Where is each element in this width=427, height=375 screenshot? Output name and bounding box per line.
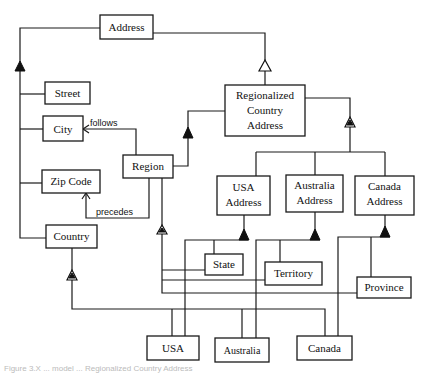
class-canada-address[interactable]: Canada Address (355, 176, 414, 215)
country-bus-line (72, 248, 325, 336)
class-regionalized-country-address[interactable]: Regionalized Country Address (225, 85, 305, 136)
svg-text:Address: Address (225, 196, 261, 208)
follows-label: follows (90, 118, 118, 128)
class-state[interactable]: State (205, 254, 243, 275)
class-city[interactable]: City (43, 116, 83, 141)
class-region[interactable]: Region (123, 155, 173, 178)
svg-text:Territory: Territory (274, 267, 313, 279)
usa-aggregation-triangle-icon (239, 229, 249, 240)
address-generalization-line (153, 33, 265, 85)
svg-text:City: City (54, 123, 73, 135)
class-canada[interactable]: Canada (297, 336, 352, 360)
svg-text:Address: Address (296, 194, 332, 206)
svg-text:USA: USA (162, 342, 184, 354)
svg-text:Address: Address (247, 119, 283, 131)
class-territory[interactable]: Territory (265, 262, 322, 285)
precedes-label: precedes (96, 207, 134, 217)
class-usa-address[interactable]: USA Address (217, 176, 270, 215)
svg-text:Zip Code: Zip Code (50, 175, 91, 187)
figure-caption: Figure 3.X ... model ... Regionalized Co… (4, 364, 193, 373)
svg-text:USA: USA (232, 181, 254, 193)
region-aggregation-triangle-icon (183, 127, 193, 138)
svg-text:Canada: Canada (368, 180, 401, 192)
svg-text:Country: Country (247, 104, 284, 116)
canada-aggregation-triangle-icon (380, 226, 390, 237)
svg-text:Province: Province (364, 281, 403, 293)
generalization-triangle-icon (259, 60, 271, 71)
class-country[interactable]: Country (46, 225, 97, 248)
rca-subclass-line (305, 98, 350, 152)
svg-text:Canada: Canada (308, 342, 341, 354)
class-australia[interactable]: Australia (215, 338, 269, 362)
svg-text:Australia: Australia (224, 345, 261, 356)
svg-text:State: State (213, 258, 235, 270)
svg-text:Address: Address (108, 21, 144, 33)
australia-aggregation-triangle-icon (310, 229, 320, 240)
class-province[interactable]: Province (357, 277, 411, 298)
svg-text:Street: Street (55, 87, 81, 99)
svg-text:Australia: Australia (294, 179, 334, 191)
region-rca-line (173, 111, 225, 166)
class-zip-code[interactable]: Zip Code (42, 170, 100, 193)
class-address[interactable]: Address (100, 15, 153, 39)
follows-line (83, 129, 136, 155)
svg-text:Address: Address (366, 195, 402, 207)
class-street[interactable]: Street (45, 82, 90, 104)
svg-text:Country: Country (53, 230, 90, 242)
class-usa[interactable]: USA (147, 336, 199, 360)
class-australia-address[interactable]: Australia Address (286, 175, 343, 212)
class-diagram: Address Street City follows Region Zip C… (0, 0, 427, 375)
svg-text:Regionalized: Regionalized (236, 89, 295, 101)
aggregation-triangle-icon (15, 61, 25, 71)
svg-text:Region: Region (132, 160, 164, 172)
